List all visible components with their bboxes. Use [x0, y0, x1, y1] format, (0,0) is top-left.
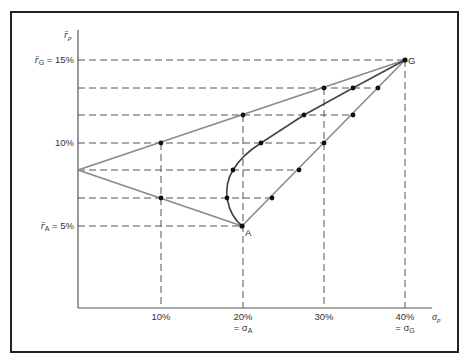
portfolio-diagram: G A r̄p r̄G = 15% 10% r̄A = 5% 10% 20% =… — [0, 0, 467, 361]
y-tick-15: r̄G = 15% — [35, 54, 75, 66]
y-tick-5: r̄A = 5% — [41, 220, 75, 232]
point-a-label: A — [245, 227, 252, 238]
x-tick-10: 10% — [151, 311, 171, 322]
x-tick-40: 40% — [395, 311, 415, 322]
horizontal-guides — [78, 60, 405, 226]
y-axis-label: r̄p — [64, 29, 72, 42]
point-g-label: G — [408, 55, 415, 66]
x-tick-20-note: = σA — [234, 322, 253, 334]
x-tick-30: 30% — [314, 311, 334, 322]
data-points — [159, 57, 408, 228]
axes — [78, 30, 432, 308]
x-tick-20: 20% — [233, 311, 253, 322]
x-tick-40-note: = σG — [395, 322, 415, 334]
y-tick-10: 10% — [55, 137, 75, 148]
x-axis-label: σp — [432, 311, 441, 324]
